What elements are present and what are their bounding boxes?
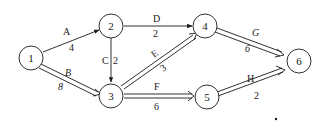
node-1-label: 1 [28, 52, 34, 64]
edge-h-duration: 2 [254, 90, 259, 101]
edge-f-duration: 6 [154, 101, 159, 112]
edge-a: A 4 [43, 26, 99, 53]
edge-a-activity: A [63, 26, 71, 37]
edge-c: C 2 [102, 38, 118, 82]
node-4: 4 [193, 14, 217, 38]
edge-h-activity: H [247, 73, 254, 84]
edge-c-activity: C [102, 55, 109, 66]
edge-a-duration: 4 [69, 42, 74, 53]
edge-g-activity: G [252, 27, 259, 38]
network-diagram: A 4 B 8 C 2 D 2 E 3 [0, 0, 329, 121]
node-6-label: 6 [296, 55, 302, 67]
edge-d-duration: 2 [153, 28, 158, 39]
edge-e-duration: 3 [158, 62, 168, 74]
edge-b-activity: B [65, 67, 71, 78]
node-1: 1 [19, 46, 43, 70]
edge-h: H 2 [217, 66, 285, 101]
edge-f: F 6 [124, 81, 194, 112]
node-2-label: 2 [108, 20, 114, 32]
edge-g-duration: 6 [245, 43, 250, 54]
edge-g: G 6 [215, 27, 284, 57]
node-5: 5 [195, 85, 219, 109]
node-2: 2 [99, 14, 123, 38]
edge-b: B 8 [39, 64, 101, 96]
edge-e-activity: E [149, 47, 160, 60]
edge-b-duration: 8 [58, 81, 63, 92]
edge-d: D 2 [124, 13, 192, 39]
node-6: 6 [287, 49, 311, 73]
edge-c-duration: 2 [113, 55, 118, 66]
diagram-svg: A 4 B 8 C 2 D 2 E 3 [0, 0, 329, 121]
edge-d-activity: D [153, 13, 160, 24]
node-5-label: 5 [204, 91, 210, 103]
node-4-label: 4 [202, 20, 208, 32]
dot-mark [275, 118, 277, 120]
node-3: 3 [99, 84, 123, 108]
node-3-label: 3 [108, 90, 114, 102]
edge-f-activity: F [154, 81, 160, 92]
